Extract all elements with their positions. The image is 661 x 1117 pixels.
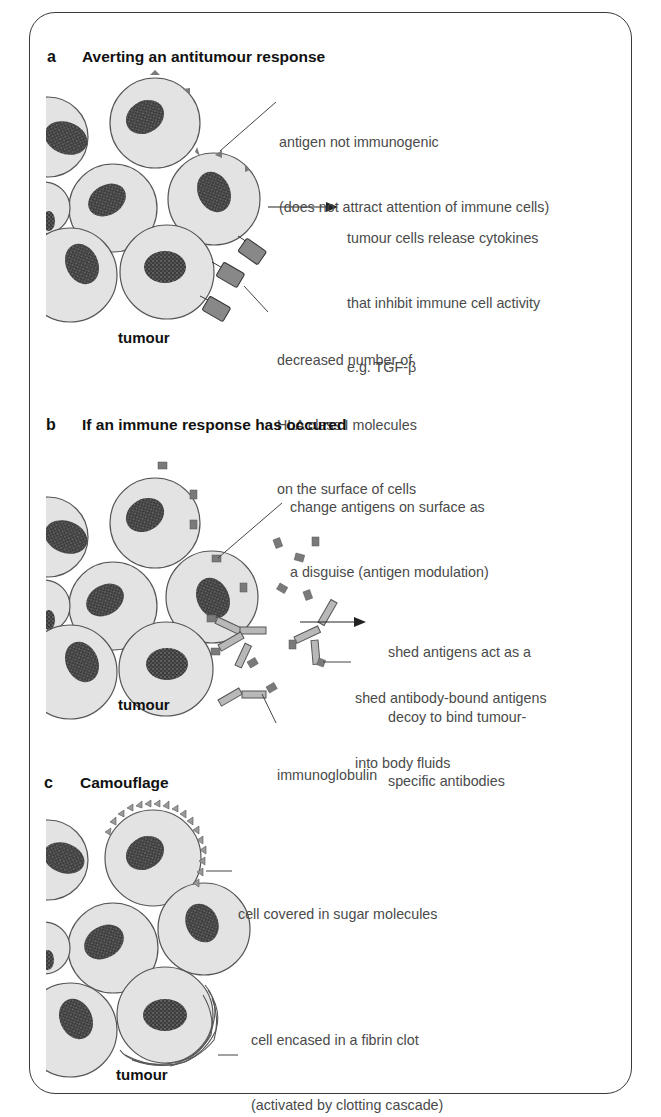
arrow-head-b [354,617,366,627]
panel-title-c: Camouflage [80,774,169,792]
annotation-fibrin-clot: cell encased in a fibrin clot (activated… [251,987,443,1117]
tumour-label-c: tumour [116,1066,168,1083]
annotation-shed-antibody-bound: shed antibody-bound antigens into body f… [355,645,547,796]
tumour-label-a: tumour [118,329,170,346]
panel-title-a: Averting an antitumour response [82,48,325,66]
annotation-immunoglobulin: immunoglobulin [277,722,377,808]
annotation-antigen-modulation: change antigens on surface as a disguise… [290,454,489,605]
panel-letter-a: a [47,48,56,66]
panel-title-b: If an immune response has occured [82,416,346,434]
panel-letter-b: b [46,416,56,434]
tumour-label-b: tumour [118,696,170,713]
panel-letter-c: c [44,774,53,792]
annotation-sugar-molecules: cell covered in sugar molecules [238,861,437,947]
